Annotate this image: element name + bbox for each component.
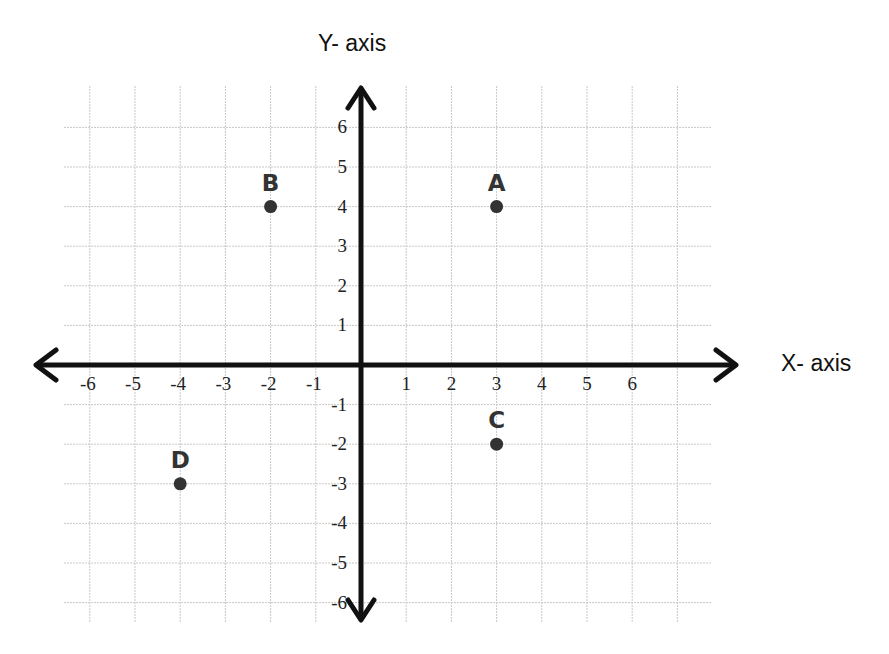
point-marker: [264, 200, 277, 213]
x-tick-label: 4: [537, 373, 547, 394]
x-tick-label: -3: [215, 373, 231, 394]
x-tick-label: 2: [447, 373, 457, 394]
point-marker: [174, 477, 187, 490]
y-tick-label: 4: [338, 196, 348, 217]
x-tick-label: -5: [125, 373, 141, 394]
x-tick-label: -4: [170, 373, 186, 394]
point-marker: [490, 200, 503, 213]
x-tick-label: -2: [261, 373, 277, 394]
x-tick-label: 6: [627, 373, 637, 394]
y-tick-label: -5: [331, 552, 347, 573]
y-tick-label: -2: [331, 433, 347, 454]
point-label: C: [488, 407, 505, 433]
y-tick-label: -3: [331, 473, 347, 494]
point-b: B: [262, 170, 280, 214]
point-label: A: [488, 170, 506, 196]
y-tick-label: 1: [338, 314, 348, 335]
point-label: D: [171, 447, 190, 473]
point-label: B: [262, 170, 280, 196]
axes: [36, 88, 736, 620]
y-tick-label: 3: [338, 235, 348, 256]
grid-lines: [64, 86, 712, 622]
x-tick-label: -6: [80, 373, 96, 394]
x-tick-label: 5: [582, 373, 592, 394]
y-tick-label: -1: [331, 394, 347, 415]
point-marker: [490, 438, 503, 451]
x-tick-label: 3: [492, 373, 502, 394]
y-tick-label: 2: [338, 275, 348, 296]
point-c: C: [488, 407, 505, 451]
y-tick-label: -4: [331, 512, 347, 533]
y-tick-label: 6: [338, 116, 348, 137]
x-tick-label: 1: [401, 373, 411, 394]
x-tick-label: -1: [306, 373, 322, 394]
coordinate-plane: -6-5-4-3-2-1123456654321-1-2-3-4-5-6 ABC…: [0, 0, 889, 654]
point-a: A: [488, 170, 506, 214]
y-tick-label: 5: [338, 156, 348, 177]
y-tick-label: -6: [331, 592, 347, 613]
